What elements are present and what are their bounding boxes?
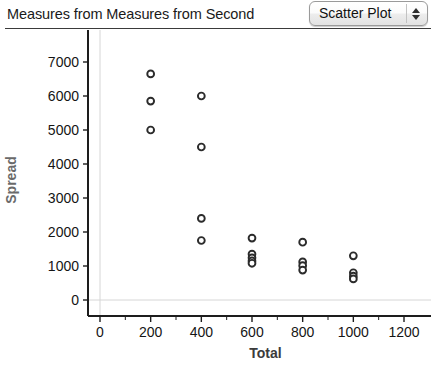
y-tick-label: 0 <box>71 292 79 308</box>
y-axis-tick-labels: 01000200030004000500060007000 <box>48 54 79 308</box>
scatter-plot: 020040060080010001200 010002000300040005… <box>0 30 433 365</box>
data-point-series <box>147 71 356 283</box>
data-point <box>198 144 205 151</box>
x-axis-tick-labels: 020040060080010001200 <box>96 324 420 340</box>
gridlines <box>88 30 431 316</box>
x-tick-label: 1000 <box>338 324 369 340</box>
spinner-arrows[interactable] <box>406 4 424 23</box>
caret-down-icon[interactable] <box>412 15 420 20</box>
x-tick-label: 1200 <box>388 324 419 340</box>
data-point <box>350 252 357 259</box>
data-point <box>147 127 154 134</box>
caret-up-icon[interactable] <box>412 8 420 13</box>
data-point <box>299 239 306 246</box>
y-axis-label: Spread <box>3 156 19 203</box>
y-tick-label: 5000 <box>48 122 79 138</box>
x-tick-label: 200 <box>139 324 163 340</box>
x-tick-label: 800 <box>291 324 315 340</box>
plot-canvas: 020040060080010001200 010002000300040005… <box>0 30 433 365</box>
x-tick-label: 600 <box>240 324 264 340</box>
y-tick-label: 4000 <box>48 156 79 172</box>
x-axis-label: Total <box>249 345 281 361</box>
x-tick-label: 0 <box>96 324 104 340</box>
data-point <box>147 71 154 78</box>
axis-lines <box>88 30 431 316</box>
data-point <box>147 98 154 105</box>
data-point <box>299 267 306 274</box>
y-tick-label: 2000 <box>48 224 79 240</box>
header-divider <box>5 28 431 29</box>
data-point <box>198 93 205 100</box>
plot-type-selected-label: Scatter Plot <box>319 5 391 21</box>
x-tick-label: 400 <box>190 324 214 340</box>
data-point <box>249 260 256 267</box>
y-tick-label: 3000 <box>48 190 79 206</box>
y-tick-label: 6000 <box>48 88 79 104</box>
data-point <box>198 215 205 222</box>
chart-header: Measures from Measures from Second Scatt… <box>0 0 433 30</box>
y-tick-label: 7000 <box>48 54 79 70</box>
data-point <box>198 237 205 244</box>
page-title: Measures from Measures from Second <box>7 6 254 22</box>
data-point <box>249 235 256 242</box>
data-point <box>350 276 357 283</box>
y-tick-label: 1000 <box>48 258 79 274</box>
plot-type-popup-menu[interactable]: Scatter Plot <box>309 1 428 26</box>
